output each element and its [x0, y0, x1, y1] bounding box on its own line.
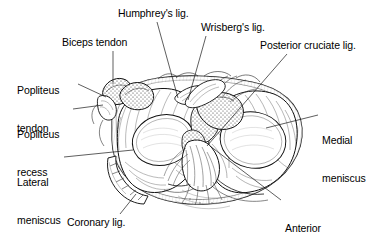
label-lateral-meniscus: Lateral meniscus — [17, 151, 61, 239]
label-medial-meniscus-line2: meniscus — [322, 172, 366, 185]
label-lateral-meniscus-line2: meniscus — [17, 214, 61, 227]
anatomy-figure: Humphrey's lig. Wrisberg's lig. Posterio… — [0, 0, 390, 239]
label-popliteus-tendon-line1: Popliteus — [17, 84, 59, 97]
label-coronary-lig: Coronary lig. — [67, 216, 125, 229]
popliteus-tendon-structure — [120, 83, 154, 110]
leader-popliteus-tendon — [78, 84, 106, 97]
label-biceps-tendon: Biceps tendon — [62, 36, 127, 49]
label-lateral-meniscus-line1: Lateral — [17, 176, 61, 189]
label-humphreys-lig: Humphrey's lig. — [118, 7, 189, 20]
label-posterior-cruciate-lig: Posterior cruciate lig. — [260, 39, 356, 52]
label-anterior-cruciate-lig-line1: Anterior — [285, 222, 337, 235]
label-popliteus-recess-line1: Popliteus — [17, 128, 59, 141]
label-medial-meniscus: Medial meniscus — [322, 109, 366, 209]
label-anterior-cruciate-lig: Anterior cruciate lig. — [285, 197, 337, 239]
label-wrisbergs-lig: Wrisberg's lig. — [201, 21, 265, 34]
label-medial-meniscus-line1: Medial — [322, 134, 366, 147]
